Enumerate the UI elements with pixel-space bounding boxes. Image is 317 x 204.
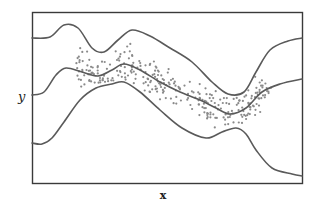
data-point [225,102,227,104]
data-point [129,43,131,45]
data-point [107,80,109,82]
data-point [198,114,200,116]
data-point [214,117,216,119]
data-point [150,80,152,82]
data-point [79,59,81,61]
data-point [132,62,134,64]
data-point [255,92,257,94]
data-point [232,121,234,123]
data-point [79,47,81,49]
data-point [261,79,263,81]
data-point [207,116,209,118]
data-point [80,79,82,81]
data-point [214,126,216,128]
data-point [149,91,151,93]
data-point [138,60,140,62]
data-point [91,72,93,74]
data-point [109,64,111,66]
data-point [102,79,104,81]
data-point [242,100,244,102]
data-point [240,114,242,116]
data-point [227,123,229,125]
data-point [172,78,174,80]
data-point [258,98,260,100]
data-point [259,89,261,91]
data-point [111,77,113,79]
data-point [259,111,261,113]
data-point [229,116,231,118]
data-point [81,51,83,53]
data-point [123,51,125,53]
data-point [241,107,243,109]
data-point [83,83,85,85]
data-point [144,89,146,91]
data-point [104,61,106,63]
mean-fit-curve [32,64,302,114]
data-point [206,114,208,116]
lower-band-curve [32,82,302,176]
data-point [215,90,217,92]
data-point [102,77,104,79]
data-point [86,64,88,66]
data-point [75,62,77,64]
data-point [99,77,101,79]
data-point [179,88,181,90]
data-point [198,103,200,105]
data-point [168,82,170,84]
data-point [164,87,166,89]
data-point [88,80,90,82]
data-point [174,81,176,83]
data-point [157,74,159,76]
data-point [86,51,88,53]
data-point [165,97,167,99]
data-point [175,96,177,98]
data-point [236,97,238,99]
data-point [249,108,251,110]
data-point [189,104,191,106]
data-point [143,82,145,84]
data-point [191,108,193,110]
data-point [231,110,233,112]
data-point [249,106,251,108]
data-point [226,97,228,99]
data-point [104,81,106,83]
data-point [151,88,153,90]
data-point [131,68,133,70]
data-point [241,116,243,118]
data-point [78,56,80,58]
data-point [154,85,156,87]
data-point [183,85,185,87]
data-point [116,59,118,61]
data-point [133,82,135,84]
data-point [155,65,157,67]
data-point [160,86,162,88]
data-point [253,105,255,107]
data-point [147,78,149,80]
data-point [186,99,188,101]
data-point [135,73,137,75]
data-point [119,71,121,73]
data-point [245,115,247,117]
data-point [167,72,169,74]
data-point [219,99,221,101]
data-point [175,103,177,105]
data-point [191,90,193,92]
data-point [239,99,241,101]
data-point [152,74,154,76]
data-point [254,109,256,111]
data-point [209,93,211,95]
data-point [78,61,80,63]
data-point [254,114,256,116]
data-point [145,81,147,83]
data-point [97,65,99,67]
data-point [212,113,214,115]
data-point [264,96,266,98]
data-point [223,116,225,118]
data-point [156,91,158,93]
data-point [260,97,262,99]
data-point [118,60,120,62]
data-point [241,122,243,124]
data-point [224,119,226,121]
data-point [97,69,99,71]
data-point [170,98,172,100]
